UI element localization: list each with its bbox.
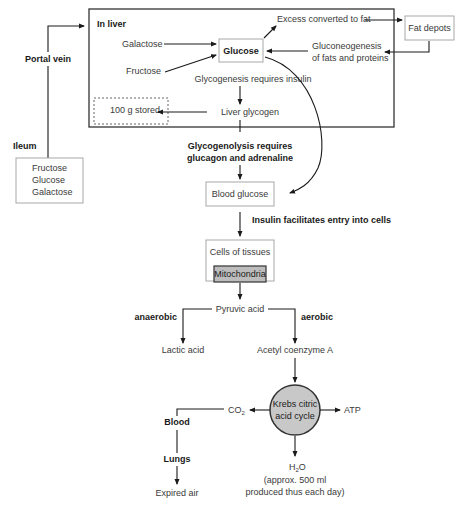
blood-label: Blood [164,417,190,427]
co2-to-blood-line [177,409,224,416]
co2-label: CO2 [228,405,246,416]
ileum-item: Galactose [32,187,73,197]
acetyl-coa-label: Acetyl coenzyme A [257,345,333,355]
stored-label: 100 g stored [110,105,160,115]
gluconeogenesis-line2: of fats and proteins [312,53,389,63]
cells-of-tissues-label: Cells of tissues [210,247,271,257]
aerobic-label: aerobic [301,312,333,322]
h2o-note-line1: (approx. 500 ml [264,475,327,485]
expired-air-label: Expired air [155,488,198,498]
glucose-metabolism-diagram: In liver Galactose Fructose Glucose Exce… [0,0,472,512]
liver-title: In liver [97,19,127,29]
fat-depots-label: Fat depots [408,23,451,33]
mitochondria-label: Mitochondria [214,269,266,279]
pyruvic-acid-label: Pyruvic acid [216,304,265,314]
blood-glucose-label: Blood glucose [212,189,269,199]
insulin-label: Insulin facilitates entry into cells [252,215,391,225]
lactic-acid-label: Lactic acid [162,345,205,355]
h2o-label: H2O [289,462,306,473]
aerobic-arrow [268,309,295,343]
h2o-note-line2: produced thus each day) [245,487,344,497]
fructose-arrow [165,55,216,72]
ileum-item: Glucose [32,175,65,185]
glycogenesis-label: Glycogenesis requires insulin [194,74,311,84]
anaerobic-label: anaerobic [134,312,177,322]
glucose-label: Glucose [223,46,259,56]
krebs-line1: Krebs citric [273,399,318,409]
lungs-label: Lungs [164,454,191,464]
portal-vein-arrow [48,26,84,158]
liver-galactose: Galactose [122,39,163,49]
glycogenolysis-line2: glucagon and adrenaline [187,153,293,163]
liver-fructose: Fructose [126,66,161,76]
krebs-cycle-circle [270,385,320,435]
atp-label: ATP [344,405,361,415]
krebs-line2: acid cycle [275,411,315,421]
excess-converted-label: Excess converted to fat [277,14,371,24]
ileum-item: Fructose [32,163,67,173]
glycogenolysis-line1: Glycogenolysis requires [188,141,293,151]
fat-depots-return-arrow [385,41,429,52]
ileum-label: Ileum [13,141,37,151]
gluconeogenesis-line1: Gluconeogenesis [312,41,382,51]
liver-glycogen-label: Liver glycogen [221,107,279,117]
anaerobic-arrow [183,309,212,343]
excess-arrow [264,26,276,38]
portal-vein-label: Portal vein [25,54,71,64]
